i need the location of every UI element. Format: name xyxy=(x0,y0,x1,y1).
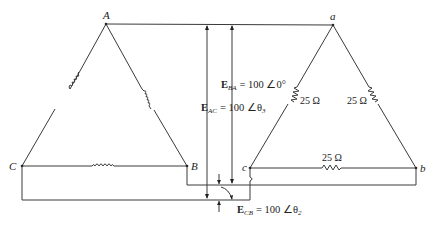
wire-coil-right-B xyxy=(154,110,187,166)
wire-res-left-c xyxy=(250,104,288,168)
arrowhead-E-BA-top xyxy=(230,25,234,30)
delta-delta-circuit: A C B a c b 25 Ω 25 Ω 25 Ω EBA= 100 ∠0° … xyxy=(0,0,433,228)
resistor-ac-icon xyxy=(291,87,299,102)
wire-coil-left-C xyxy=(22,109,55,166)
arrowhead-E-CB-bottom xyxy=(217,201,221,205)
generator-delta xyxy=(21,23,189,168)
arrowhead-E-BA-bottom xyxy=(230,179,234,184)
eq-E-AC: EAC= 100 ∠θ3 xyxy=(201,102,266,115)
resistor-label-cb: 25 Ω xyxy=(322,152,342,163)
label-C: C xyxy=(9,160,17,172)
inductor-AB-icon xyxy=(142,89,151,109)
resistor-label-ab: 25 Ω xyxy=(347,95,367,106)
resistor-label-ac: 25 Ω xyxy=(300,95,320,106)
load-delta xyxy=(249,24,418,170)
voltage-arrows xyxy=(205,25,234,212)
label-A: A xyxy=(102,9,110,21)
line-C-c xyxy=(22,166,250,200)
crossover-jog xyxy=(250,168,252,185)
eq-E-CB: ECB= 100 ∠θ2 xyxy=(237,204,302,217)
resistor-ab-icon xyxy=(368,87,378,102)
resistor-cb-icon xyxy=(322,165,341,170)
line-A-a xyxy=(106,24,333,25)
wire-res-right-b xyxy=(378,104,416,168)
label-B: B xyxy=(191,160,198,172)
label-c: c xyxy=(242,161,247,173)
arrowhead-E-CB-top xyxy=(217,180,221,184)
wire-a-res-right xyxy=(333,25,369,87)
arrowhead-E-AC-top xyxy=(205,25,209,30)
inductor-CB-icon xyxy=(92,164,114,166)
eq-E-BA: EBA= 100 ∠0° xyxy=(221,79,286,92)
pointer-E-CB xyxy=(221,187,232,199)
arrowhead-E-AC-bottom xyxy=(205,194,209,199)
wire-a-res-left xyxy=(297,25,333,87)
label-b: b xyxy=(420,162,426,174)
line-B-b xyxy=(187,166,416,185)
wire-A-coil-right xyxy=(106,24,142,89)
label-a: a xyxy=(330,10,336,22)
